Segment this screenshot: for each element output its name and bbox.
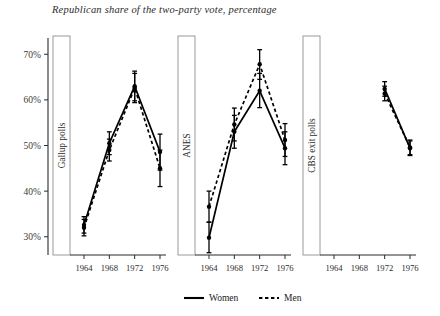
series-line-women	[209, 91, 285, 238]
data-point	[207, 235, 211, 239]
panel-strip-label: ANES	[182, 133, 192, 157]
x-axis-tick-label: 1968	[101, 263, 118, 273]
x-axis-tick-label: 1976	[401, 263, 419, 273]
data-point	[257, 89, 261, 93]
series-line-women	[385, 89, 410, 148]
series-line-women	[84, 86, 160, 225]
y-axis-tick-label: 40%	[24, 187, 42, 197]
data-point	[207, 204, 211, 208]
x-axis-tick-label: 1976	[276, 263, 294, 273]
chart-panel: Gallup polls1964196819721976	[53, 36, 169, 273]
data-point	[132, 84, 136, 88]
y-axis-tick-label: 70%	[24, 50, 42, 60]
chart-panel: ANES1964196819721976	[178, 36, 294, 273]
data-point	[382, 87, 386, 91]
data-point	[232, 130, 236, 134]
legend-label: Women	[209, 293, 239, 303]
data-point	[158, 150, 162, 154]
x-axis-tick-label: 1976	[151, 263, 169, 273]
data-point	[408, 146, 412, 150]
series-line-men	[84, 88, 160, 228]
data-point	[283, 146, 287, 150]
panel-strip-label: CBS exit polls	[307, 118, 317, 173]
x-axis-tick-label: 1964	[200, 263, 218, 273]
data-point	[257, 62, 261, 66]
series-line-men	[209, 64, 285, 206]
chart-legend: WomenMen	[184, 293, 302, 303]
legend-label: Men	[284, 293, 302, 303]
x-axis-tick-label: 1972	[376, 263, 393, 273]
y-axis-tick-label: 50%	[24, 141, 42, 151]
data-point	[82, 223, 86, 227]
x-axis-tick-label: 1968	[226, 263, 243, 273]
x-axis-tick-label: 1968	[351, 263, 368, 273]
x-axis-tick-label: 1972	[251, 263, 268, 273]
data-point	[107, 141, 111, 145]
y-axis-tick-label: 60%	[24, 95, 42, 105]
x-axis-tick-label: 1964	[75, 263, 93, 273]
chart-plot-area: 30%40%50%60%70%Gallup polls1964196819721…	[0, 0, 440, 316]
x-axis-tick-label: 1964	[325, 263, 343, 273]
panel-strip-label: Gallup polls	[57, 122, 67, 168]
chart-panel: CBS exit polls1964196819721976	[303, 36, 419, 273]
chart-figure: Republican share of the two-party vote, …	[0, 0, 440, 316]
y-axis-tick-label: 30%	[24, 232, 42, 242]
x-axis-tick-label: 1972	[126, 263, 143, 273]
